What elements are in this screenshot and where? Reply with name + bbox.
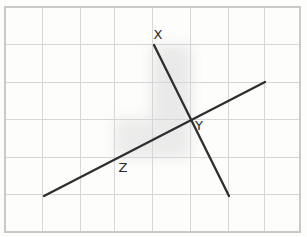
figure-canvas: XYZ (0, 0, 307, 237)
label-x: X (154, 27, 163, 42)
label-y: Y (194, 118, 203, 133)
geometry-figure: XYZ (0, 0, 307, 237)
label-z: Z (119, 160, 128, 175)
